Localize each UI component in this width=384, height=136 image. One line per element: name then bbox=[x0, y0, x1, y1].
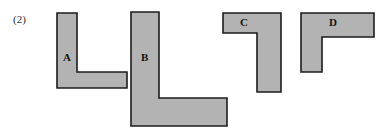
shape-c-label: C bbox=[240, 17, 248, 28]
shape-a-label: A bbox=[63, 52, 71, 63]
shape-d-label: D bbox=[329, 17, 337, 28]
figure-svg-canvas bbox=[0, 0, 384, 136]
figure-container: (2) ABCD bbox=[0, 0, 384, 136]
shape-b-label: B bbox=[141, 52, 149, 63]
figure-caption: (2) bbox=[13, 14, 26, 25]
